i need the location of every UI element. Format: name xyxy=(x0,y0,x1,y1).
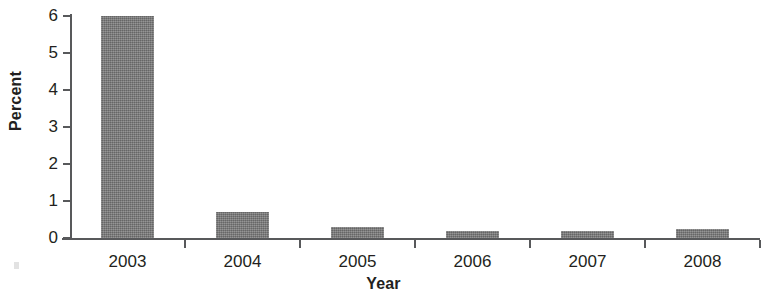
y-axis-tick xyxy=(63,237,70,239)
y-axis-tick xyxy=(63,200,70,202)
bar xyxy=(101,16,153,238)
y-axis-tick xyxy=(63,89,70,91)
x-axis-tick-label: 2004 xyxy=(224,252,262,272)
x-axis-tick xyxy=(299,240,301,248)
scan-artifact-speck xyxy=(14,262,19,269)
x-axis-tick-label: 2005 xyxy=(339,252,377,272)
x-axis-tick-label: 2003 xyxy=(109,252,147,272)
y-axis-title: Percent xyxy=(7,61,25,141)
x-axis-tick-label: 2007 xyxy=(569,252,607,272)
bar-chart-figure: Percent Year 0123456 2003200420052006200… xyxy=(0,0,767,299)
y-axis-tick xyxy=(63,163,70,165)
x-axis-tick xyxy=(184,240,186,248)
bar xyxy=(216,212,268,238)
y-axis-tick-label: 1 xyxy=(32,191,58,211)
y-axis-tick-label: 2 xyxy=(32,154,58,174)
x-axis-tick xyxy=(759,240,761,248)
y-axis-tick xyxy=(63,52,70,54)
x-axis-tick xyxy=(529,240,531,248)
bar xyxy=(446,231,498,238)
x-axis-tick-label: 2006 xyxy=(454,252,492,272)
plot-area: 0123456 200320042005200620072008 xyxy=(70,8,760,238)
bar xyxy=(676,229,728,238)
y-axis-tick xyxy=(63,126,70,128)
y-axis-tick-label: 0 xyxy=(32,228,58,248)
bar xyxy=(561,231,613,238)
y-axis-tick-label: 3 xyxy=(32,117,58,137)
x-axis-title: Year xyxy=(0,275,767,293)
bar xyxy=(331,227,383,238)
x-axis-tick-label: 2008 xyxy=(684,252,722,272)
y-axis-tick-label: 4 xyxy=(32,80,58,100)
x-axis-tick xyxy=(414,240,416,248)
y-axis-tick-label: 5 xyxy=(32,43,58,63)
x-axis-line xyxy=(62,238,760,240)
y-axis-tick-label: 6 xyxy=(32,6,58,26)
y-axis-line xyxy=(70,14,72,238)
y-axis-tick xyxy=(63,15,70,17)
x-axis-tick xyxy=(644,240,646,248)
